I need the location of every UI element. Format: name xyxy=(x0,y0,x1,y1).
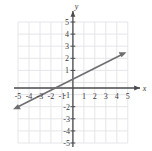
x-tick-label: 3 xyxy=(104,92,108,101)
x-axis-arrow xyxy=(134,86,140,91)
x-tick-label: 4 xyxy=(115,92,119,101)
y-tick-label: 3 xyxy=(65,42,69,51)
x-tick-label: 1 xyxy=(82,92,86,101)
coordinate-plane-graph: -5 -4 -3 -2 -1 1 2 3 4 5 5 4 3 2 1 -1 -2… xyxy=(0,0,152,151)
y-axis-label: y xyxy=(74,2,79,11)
x-tick-label: -3 xyxy=(37,92,44,101)
x-axis-label: x xyxy=(142,84,147,93)
y-tick-label: -3 xyxy=(63,115,70,124)
y-tick-label: -5 xyxy=(63,139,70,148)
y-tick-label: -4 xyxy=(63,127,70,136)
y-tick-label: -2 xyxy=(63,103,70,112)
y-tick-label: 2 xyxy=(65,54,69,63)
axes xyxy=(14,11,140,147)
x-tick-label: -2 xyxy=(48,92,55,101)
x-tick-label: 2 xyxy=(93,92,97,101)
x-tick-label: -5 xyxy=(15,92,22,101)
plotted-line xyxy=(13,52,127,109)
x-tick-label: -4 xyxy=(26,92,33,101)
y-tick-label: 5 xyxy=(65,18,69,27)
x-tick-label: 5 xyxy=(126,92,130,101)
y-tick-label: 4 xyxy=(65,30,69,39)
y-axis-arrow xyxy=(71,11,76,17)
y-tick-label: -1 xyxy=(63,91,70,100)
graph-svg: -5 -4 -3 -2 -1 1 2 3 4 5 5 4 3 2 1 -1 -2… xyxy=(0,0,152,151)
y-tick-label: 1 xyxy=(65,66,69,75)
